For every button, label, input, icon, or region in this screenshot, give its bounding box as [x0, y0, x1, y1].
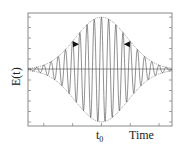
envelope-lower [28, 70, 172, 121]
pulse-chart [0, 0, 184, 151]
arrow-right-marker-icon [73, 41, 79, 47]
arrow-left-marker-icon [124, 41, 130, 47]
x-axis-label: Time [129, 128, 154, 143]
y-axis-label: E(t) [9, 67, 24, 86]
y-axis-ticks [28, 17, 172, 122]
plot-frame [28, 13, 172, 126]
t0-tick-label: t0 [96, 128, 103, 144]
